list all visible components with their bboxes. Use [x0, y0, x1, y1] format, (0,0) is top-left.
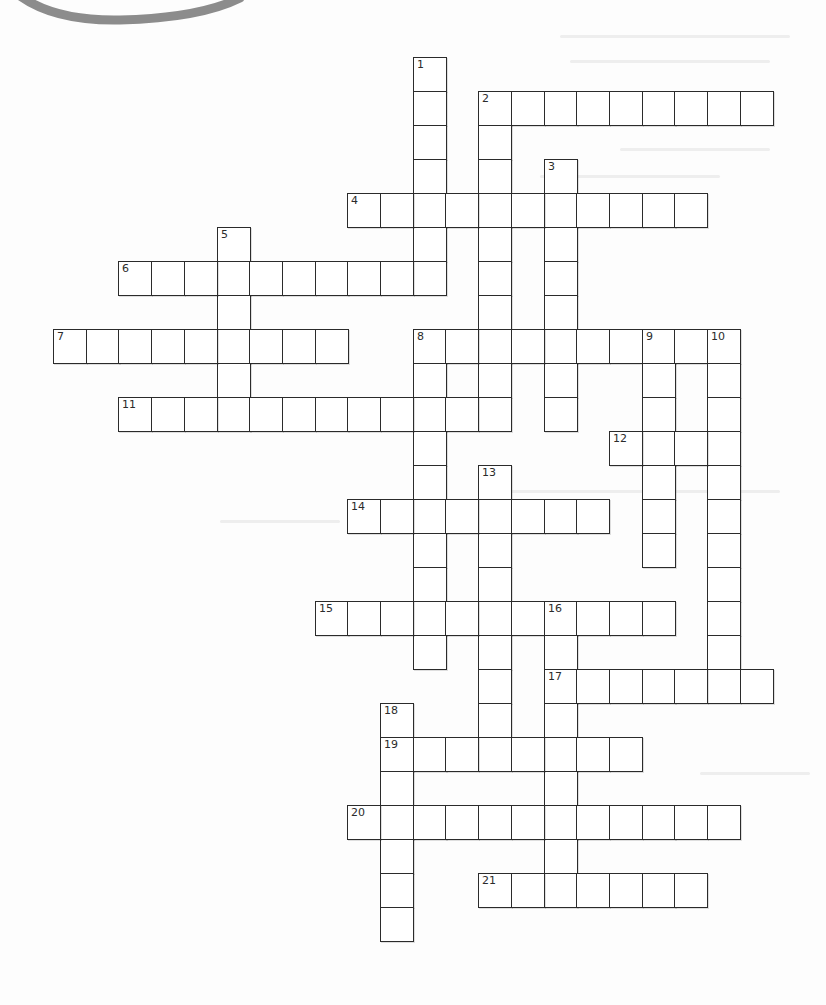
crossword-cell[interactable]	[511, 329, 545, 364]
crossword-cell[interactable]: 6	[118, 261, 152, 296]
crossword-cell[interactable]	[642, 91, 676, 126]
crossword-cell[interactable]	[184, 397, 218, 432]
crossword-cell[interactable]	[413, 261, 447, 296]
crossword-cell[interactable]	[478, 397, 512, 432]
crossword-cell[interactable]	[740, 91, 774, 126]
crossword-cell[interactable]	[413, 125, 447, 160]
crossword-cell[interactable]	[380, 499, 414, 534]
crossword-cell[interactable]	[380, 907, 414, 942]
crossword-cell[interactable]	[707, 601, 741, 636]
crossword-cell[interactable]	[445, 193, 479, 228]
crossword-cell[interactable]	[478, 669, 512, 704]
crossword-cell[interactable]	[707, 533, 741, 568]
crossword-cell[interactable]	[740, 669, 774, 704]
crossword-cell[interactable]	[707, 635, 741, 670]
crossword-cell[interactable]	[413, 499, 447, 534]
crossword-cell[interactable]	[511, 499, 545, 534]
crossword-cell[interactable]	[217, 397, 251, 432]
crossword-cell[interactable]	[249, 397, 283, 432]
crossword-cell[interactable]	[511, 873, 545, 908]
crossword-cell[interactable]: 3	[544, 159, 578, 194]
crossword-cell[interactable]	[151, 261, 185, 296]
crossword-cell[interactable]	[478, 533, 512, 568]
crossword-cell[interactable]	[642, 533, 676, 568]
crossword-cell[interactable]	[544, 805, 578, 840]
crossword-cell[interactable]	[642, 805, 676, 840]
crossword-cell[interactable]: 5	[217, 227, 251, 262]
crossword-cell[interactable]	[445, 805, 479, 840]
crossword-cell[interactable]: 1	[413, 57, 447, 92]
crossword-cell[interactable]	[544, 839, 578, 874]
crossword-cell[interactable]	[707, 431, 741, 466]
crossword-cell[interactable]: 20	[347, 805, 381, 840]
crossword-cell[interactable]	[217, 295, 251, 330]
crossword-cell[interactable]	[151, 329, 185, 364]
crossword-cell[interactable]	[707, 91, 741, 126]
crossword-cell[interactable]: 7	[53, 329, 87, 364]
crossword-cell[interactable]	[315, 261, 349, 296]
crossword-cell[interactable]	[445, 329, 479, 364]
crossword-cell[interactable]	[576, 737, 610, 772]
crossword-cell[interactable]	[609, 601, 643, 636]
crossword-cell[interactable]	[544, 703, 578, 738]
crossword-cell[interactable]	[609, 329, 643, 364]
crossword-cell[interactable]	[380, 805, 414, 840]
crossword-cell[interactable]: 19	[380, 737, 414, 772]
crossword-cell[interactable]	[609, 737, 643, 772]
crossword-cell[interactable]: 13	[478, 465, 512, 500]
crossword-cell[interactable]	[544, 193, 578, 228]
crossword-cell[interactable]	[576, 601, 610, 636]
crossword-cell[interactable]: 21	[478, 873, 512, 908]
crossword-cell[interactable]	[478, 805, 512, 840]
crossword-cell[interactable]: 15	[315, 601, 349, 636]
crossword-cell[interactable]	[674, 329, 708, 364]
crossword-cell[interactable]	[642, 193, 676, 228]
crossword-cell[interactable]	[380, 261, 414, 296]
crossword-cell[interactable]	[478, 363, 512, 398]
crossword-cell[interactable]	[707, 567, 741, 602]
crossword-cell[interactable]	[576, 193, 610, 228]
crossword-cell[interactable]	[609, 193, 643, 228]
crossword-cell[interactable]	[413, 465, 447, 500]
crossword-cell[interactable]	[347, 601, 381, 636]
crossword-cell[interactable]	[478, 193, 512, 228]
crossword-cell[interactable]	[478, 261, 512, 296]
crossword-cell[interactable]	[151, 397, 185, 432]
crossword-cell[interactable]	[413, 397, 447, 432]
crossword-cell[interactable]	[511, 601, 545, 636]
crossword-cell[interactable]	[380, 771, 414, 806]
crossword-cell[interactable]	[315, 397, 349, 432]
crossword-cell[interactable]	[544, 635, 578, 670]
crossword-cell[interactable]	[642, 669, 676, 704]
crossword-cell[interactable]	[576, 91, 610, 126]
crossword-cell[interactable]	[576, 329, 610, 364]
crossword-cell[interactable]	[380, 397, 414, 432]
crossword-cell[interactable]	[413, 193, 447, 228]
crossword-cell[interactable]	[413, 533, 447, 568]
crossword-cell[interactable]	[511, 193, 545, 228]
crossword-cell[interactable]	[674, 91, 708, 126]
crossword-cell[interactable]	[642, 431, 676, 466]
crossword-cell[interactable]: 17	[544, 669, 578, 704]
crossword-cell[interactable]	[544, 873, 578, 908]
crossword-cell[interactable]	[380, 873, 414, 908]
crossword-cell[interactable]	[184, 261, 218, 296]
crossword-cell[interactable]	[707, 805, 741, 840]
crossword-cell[interactable]	[347, 261, 381, 296]
crossword-cell[interactable]	[544, 295, 578, 330]
crossword-cell[interactable]	[511, 737, 545, 772]
crossword-cell[interactable]	[413, 805, 447, 840]
crossword-cell[interactable]	[642, 465, 676, 500]
crossword-cell[interactable]	[413, 363, 447, 398]
crossword-cell[interactable]	[511, 91, 545, 126]
crossword-cell[interactable]	[413, 91, 447, 126]
crossword-cell[interactable]	[413, 431, 447, 466]
crossword-cell[interactable]	[413, 635, 447, 670]
crossword-cell[interactable]: 11	[118, 397, 152, 432]
crossword-cell[interactable]	[347, 397, 381, 432]
crossword-cell[interactable]	[707, 363, 741, 398]
crossword-cell[interactable]	[413, 567, 447, 602]
crossword-cell[interactable]	[249, 329, 283, 364]
crossword-cell[interactable]	[282, 329, 316, 364]
crossword-cell[interactable]	[511, 805, 545, 840]
